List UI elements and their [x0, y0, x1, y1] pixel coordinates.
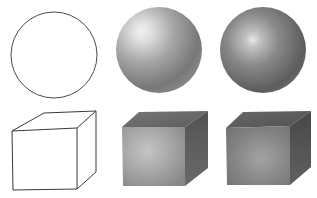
drawing-canvas: [0, 0, 317, 198]
sphere-shaded-dark: [220, 7, 306, 93]
sphere-outline: [11, 12, 97, 98]
cube-shaded-dark: [226, 111, 311, 185]
sphere-shaded-light: [116, 7, 202, 93]
sphere-row: [11, 7, 306, 98]
cube-outline: [12, 111, 96, 190]
cube-row: [12, 111, 311, 190]
cube-shaded-light: [122, 111, 208, 186]
